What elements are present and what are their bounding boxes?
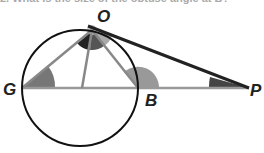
- label-o: O: [97, 7, 110, 26]
- geometry-diagram: O G B P: [0, 0, 264, 153]
- label-b: B: [145, 91, 157, 110]
- label-g: G: [3, 80, 16, 99]
- segment-og: [22, 30, 92, 88]
- label-p: P: [250, 81, 262, 100]
